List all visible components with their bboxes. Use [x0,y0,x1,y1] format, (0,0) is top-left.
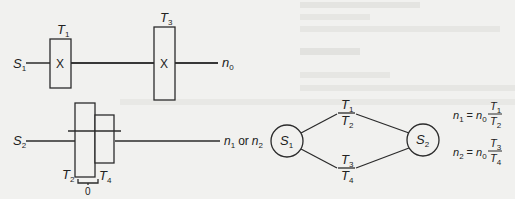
svg-text:n2=n0: n2=n0 [453,146,487,161]
top-gear-train: X X S1 T1 T3 n0 [13,10,234,100]
bottom-gear-train: 0 S2 T2 T4 n1orn2 [13,103,264,197]
svg-text:T4: T4 [341,168,354,185]
n1-or-n2-label: n1orn2 [224,134,264,150]
slide-bracket [78,179,98,183]
equation-n2: n2=n0 T3 T4 [453,137,502,167]
gear-t1-mark: X [56,57,64,71]
svg-text:T4: T4 [490,152,502,167]
speed-ray-diagram: S1 S2 T1 T2 T3 T4 [271,97,439,185]
t1-label: T1 [57,22,70,39]
t3-label: T3 [160,10,173,27]
gear-t4 [95,115,114,163]
svg-text:T3: T3 [341,152,354,169]
s1-label: S1 [13,56,27,73]
gear-t2 [75,103,95,177]
bracket-label: 0 [85,186,91,197]
t4-label: T4 [99,168,112,185]
svg-text:T2: T2 [490,115,502,130]
background-bleed-through [120,2,515,105]
gear-t3-mark: X [160,57,168,71]
gearbox-diagram: X X S1 T1 T3 n0 0 S2 T2 T4 n1orn2 S1 S2 … [0,0,515,199]
t2-label: T2 [62,167,75,184]
s2-label: S2 [13,133,27,150]
ratio-t3-t4: T3 T4 [338,152,355,185]
svg-text:n1=n0: n1=n0 [453,109,487,124]
n0-label: n0 [222,55,234,72]
svg-text:T3: T3 [490,137,502,152]
svg-text:T2: T2 [341,113,354,130]
